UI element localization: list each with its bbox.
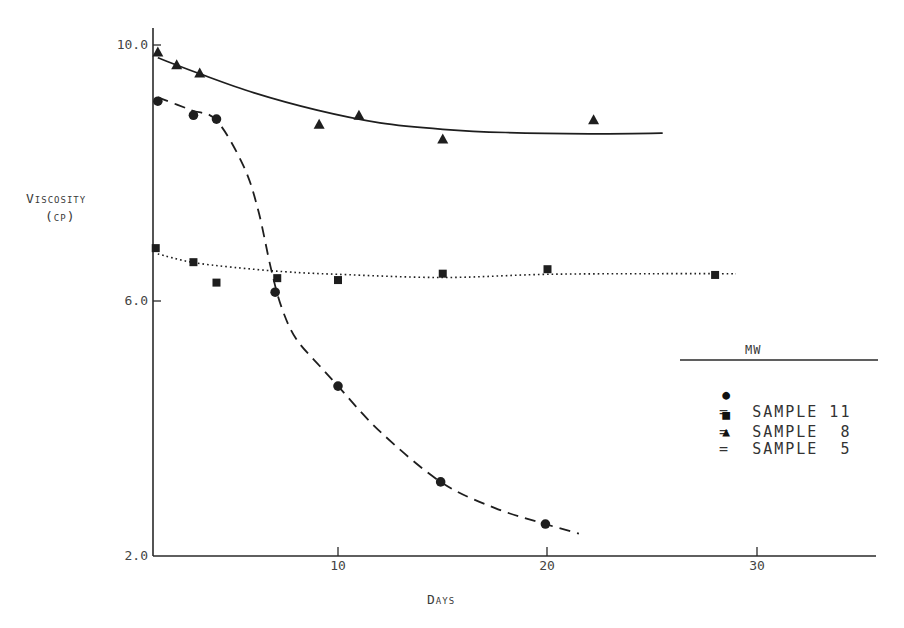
triangle-marker-icon: [152, 47, 163, 57]
fit-curve-sample-11: [158, 97, 579, 533]
triangle-marker-icon: [437, 133, 448, 143]
square-marker-icon: [212, 279, 220, 287]
circle-marker-icon: [153, 96, 163, 106]
fit-curves: [158, 58, 736, 534]
circle-marker-icon: [212, 114, 222, 124]
y-axis-label-line1: Viscosity: [26, 191, 86, 206]
legend-item-sample-5: ▲ = SAMPLE 5: [697, 404, 851, 458]
triangle-marker-icon: [588, 114, 599, 124]
x-tick-label-20: 20: [532, 558, 562, 573]
legend-label: = SAMPLE 5: [719, 440, 851, 458]
square-marker-icon: [334, 276, 342, 284]
circle-marker-icon: [270, 287, 280, 297]
square-marker-icon: [711, 271, 719, 279]
y-tick-label-6: 6.0: [104, 293, 148, 308]
square-marker-icon: [544, 265, 552, 273]
triangle-marker-icon: ▲: [719, 424, 735, 439]
square-marker-icon: [439, 270, 447, 278]
viscosity-chart: [0, 0, 904, 628]
data-points: [152, 47, 719, 529]
y-axis-label-line2: (cp): [45, 209, 76, 224]
square-marker-icon: [273, 274, 281, 282]
fit-curve-sample-5: [158, 58, 663, 134]
circle-marker-icon: [436, 477, 446, 487]
x-tick-label-30: 30: [742, 558, 772, 573]
x-tick-label-10: 10: [323, 558, 353, 573]
triangle-marker-icon: [314, 119, 325, 129]
square-marker-icon: [189, 258, 197, 266]
circle-marker-icon: [189, 110, 199, 120]
triangle-marker-icon: [353, 110, 364, 120]
legend-title: MW: [745, 343, 761, 357]
square-marker-icon: [152, 244, 160, 252]
circle-marker-icon: [541, 519, 551, 529]
circle-marker-icon: [333, 381, 343, 391]
y-tick-label-10: 10.0: [104, 37, 148, 52]
fit-curve-sample-8: [158, 254, 736, 278]
y-tick-label-2: 2.0: [104, 548, 148, 563]
x-axis-label: Days: [427, 592, 455, 607]
